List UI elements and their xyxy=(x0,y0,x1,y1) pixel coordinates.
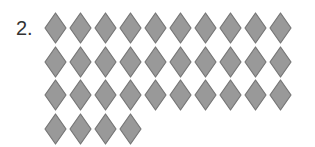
diamond-icon xyxy=(69,79,94,111)
diamond-icon xyxy=(269,12,294,44)
diamond-icon xyxy=(69,12,94,44)
diamond-icon xyxy=(119,12,144,44)
diamond-icon xyxy=(244,46,269,78)
diamond-row xyxy=(44,46,304,80)
diamond-icon xyxy=(194,12,219,44)
diamond-icon xyxy=(94,79,119,111)
diamond-icon xyxy=(144,12,169,44)
diamond-row xyxy=(44,12,304,46)
diamond-icon xyxy=(44,46,69,78)
diamond-row xyxy=(44,113,304,147)
diamond-icon xyxy=(69,46,94,78)
diamond-icon xyxy=(94,46,119,78)
diamond-icon xyxy=(269,79,294,111)
diamond-icon xyxy=(119,113,144,145)
diamond-icon xyxy=(219,79,244,111)
diamond-icon xyxy=(169,46,194,78)
diamond-icon xyxy=(219,46,244,78)
diamond-icon xyxy=(44,113,69,145)
diamond-icon xyxy=(244,12,269,44)
diamond-icon xyxy=(119,79,144,111)
diamond-icon xyxy=(219,12,244,44)
diamond-icon xyxy=(169,79,194,111)
diamond-row xyxy=(44,79,304,113)
diamond-grid xyxy=(44,12,304,146)
diamond-icon xyxy=(144,79,169,111)
diamond-icon xyxy=(44,12,69,44)
problem-label: 2. xyxy=(16,17,33,39)
diamond-icon xyxy=(194,79,219,111)
diamond-icon xyxy=(69,113,94,145)
diamond-icon xyxy=(144,46,169,78)
diamond-icon xyxy=(269,46,294,78)
diamond-icon xyxy=(244,79,269,111)
diamond-icon xyxy=(169,12,194,44)
diamond-icon xyxy=(194,46,219,78)
diamond-icon xyxy=(94,12,119,44)
diamond-icon xyxy=(44,79,69,111)
diamond-icon xyxy=(119,46,144,78)
diamond-icon xyxy=(94,113,119,145)
